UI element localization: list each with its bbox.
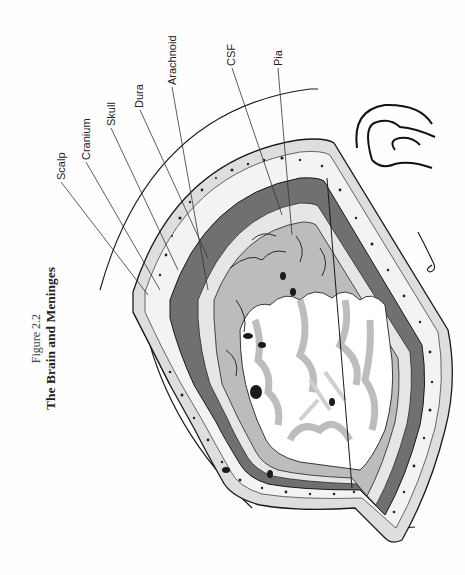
artist-signature xyxy=(418,232,435,272)
inset-brain-outline-sketch xyxy=(356,105,435,168)
figure-title: The Brain and Meninges xyxy=(43,267,59,410)
label-skull: Skull xyxy=(105,102,117,126)
label-scalp: Scalp xyxy=(55,152,67,180)
brain-meninges-illustration xyxy=(0,0,465,575)
label-csf: CSF xyxy=(225,44,237,66)
label-dura: Dura xyxy=(133,84,145,108)
label-arachnoid: Arachnoid xyxy=(166,35,178,85)
label-pia: Pia xyxy=(272,50,284,66)
figure-number: Figure 2.2 xyxy=(29,267,43,410)
textbook-page: Figure 2.2 The Brain and Meninges Scalp … xyxy=(0,0,465,575)
label-cranium: Cranium xyxy=(80,118,92,160)
figure-caption: Figure 2.2 The Brain and Meninges xyxy=(29,267,59,410)
